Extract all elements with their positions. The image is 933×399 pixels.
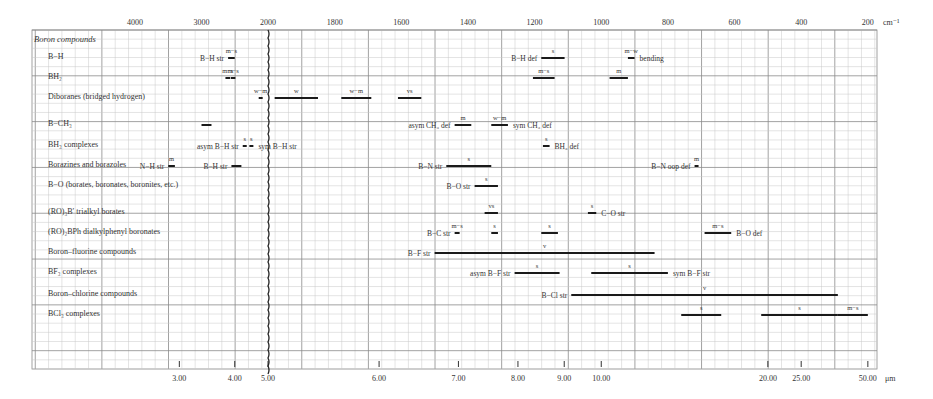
band-label: B−O str [447, 182, 472, 191]
top-axis-tick-label: 2000 [260, 18, 276, 27]
band-label: bending [640, 54, 664, 63]
band-intensity: m [616, 67, 621, 74]
bottom-axis-tick-label: 7.00 [451, 374, 465, 383]
compound-name: BH₂ [48, 72, 62, 81]
band-intensity: m−w [625, 47, 639, 54]
compound-name: Boron–chlorine compounds [48, 289, 137, 298]
bottom-axis-tick-label: 10.00 [592, 374, 610, 383]
compound-name: (RO)₃B′ trialkyl borates [48, 207, 125, 216]
bottom-axis-tick-label: 20.00 [759, 374, 777, 383]
top-axis-tick-label: 400 [795, 18, 807, 27]
top-axis-unit: cm⁻¹ [883, 18, 900, 27]
band-intensity: m−s [227, 67, 239, 74]
band-label: asym B−H str [197, 142, 239, 151]
band-label: B−N str [418, 162, 443, 171]
band-label: B−H def [511, 54, 538, 63]
compound-name: B−H [48, 52, 64, 61]
band-intensity: w [294, 87, 299, 94]
top-axis-tick-label: 3000 [194, 18, 210, 27]
top-axis-tick-label: 800 [662, 18, 674, 27]
band-intensity: w−m [254, 87, 267, 94]
chart-grid [32, 30, 877, 369]
bottom-axis-tick-label: 6.00 [372, 374, 386, 383]
band-label: B−H str [200, 54, 225, 63]
bottom-axis-tick-label: 50.00 [859, 374, 877, 383]
band-label: B−C str [427, 229, 451, 238]
band-label: asym CH₃ def [408, 121, 451, 130]
band-label: sym B−H str [258, 142, 297, 151]
compound-name: (RO)₂BPh dialkylphenyl boronates [48, 227, 160, 236]
band-intensity: m−s [451, 222, 463, 229]
compound-name: Diboranes (bridged hydrogen) [48, 92, 145, 101]
band-label: B−Cl str [542, 291, 568, 300]
top-axis-wavenumber: 4000300020001800160014001200100080060040… [127, 18, 900, 27]
bottom-axis-tick-label: 3.00 [172, 374, 186, 383]
bottom-axis-tick-label: 9.00 [557, 374, 571, 383]
band-intensity: vs [407, 87, 413, 94]
band-intensity: m−s [712, 222, 724, 229]
band-intensity: w−m [350, 87, 363, 94]
band-intensity: m [169, 155, 174, 162]
bottom-axis-tick-label: 25.00 [792, 374, 810, 383]
top-axis-tick-label: 1200 [527, 18, 543, 27]
top-axis-tick-label: 4000 [127, 18, 143, 27]
compound-name: BCl₃ complexes [48, 309, 100, 318]
bottom-axis-tick-label: 5.00 [261, 374, 275, 383]
compound-name: Boron–fluorine compounds [48, 247, 136, 256]
ir-correlation-chart: 4000300020001800160014001200100080060040… [0, 0, 933, 399]
band-label: sym B−F str [673, 269, 711, 278]
band-label: sym CH₃ def [513, 121, 552, 130]
compound-name: BH₃ complexes [48, 140, 98, 149]
top-axis-tick-label: 200 [862, 18, 874, 27]
bottom-axis-unit: μm [885, 374, 896, 383]
top-axis-tick-label: 1000 [593, 18, 609, 27]
bottom-axis-tick-label: 8.00 [511, 374, 525, 383]
band-label: BH₃ def [555, 142, 580, 151]
top-axis-tick-label: 600 [729, 18, 741, 27]
band-intensity: w−m [493, 114, 506, 121]
compound-name: B−O (borates, boronates, boronites, etc.… [48, 180, 179, 189]
top-axis-tick-label: 1800 [327, 18, 343, 27]
band-intensity: m−s [226, 47, 238, 54]
band-label: B−H str [203, 162, 228, 171]
bottom-axis-tick-label: 4.00 [228, 374, 242, 383]
band-label: asym B−F str [470, 269, 511, 278]
chart-title: Boron compounds [34, 34, 96, 44]
band-intensity: m−s [538, 67, 550, 74]
band-label: B−F str [408, 249, 431, 258]
compound-name: B−CH₃ [48, 119, 72, 128]
band-intensity: vs [488, 202, 494, 209]
top-axis-tick-label: 1400 [460, 18, 476, 27]
compound-name: BF₃ complexes [48, 267, 97, 276]
band-label: B−N oop def [651, 162, 691, 171]
top-axis-tick-label: 1600 [393, 18, 409, 27]
band-label: C−O str [601, 209, 626, 218]
band-label: N−H str [140, 162, 165, 171]
band-intensity: m−s [847, 304, 859, 311]
compound-name: Borazines and borazoles [48, 160, 126, 169]
band-intensity: m [460, 114, 465, 121]
band-label: B−O def [736, 229, 763, 238]
band-intensity: m [694, 155, 699, 162]
